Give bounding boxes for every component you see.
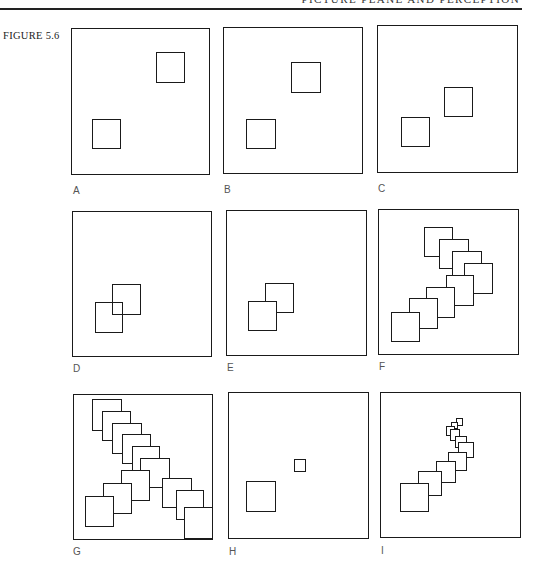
panel-label-d: D [73, 363, 80, 374]
panel-label-f: F [379, 361, 385, 372]
panel-label-h: H [229, 546, 236, 557]
square [248, 301, 277, 331]
panel-h [228, 392, 369, 539]
square [401, 117, 430, 147]
panel-label-b: B [224, 184, 231, 195]
panel-i [380, 392, 521, 538]
figure-label: FIGURE 5.6 [3, 30, 60, 41]
square [92, 119, 121, 149]
square [391, 312, 420, 342]
panel-label-g: G [73, 546, 81, 557]
panel-b [223, 27, 363, 174]
panel-label-e: E [227, 362, 234, 373]
panel-f [378, 209, 519, 355]
panel-label-c: C [378, 183, 385, 194]
panel-d [72, 211, 212, 357]
square [156, 52, 185, 83]
header-rule [0, 8, 522, 10]
running-head: PICTURE PLANE AND PERCEPTION [301, 0, 520, 5]
panel-label-i: I [381, 545, 384, 556]
square [246, 119, 276, 149]
panel-c [377, 25, 518, 173]
square [444, 87, 473, 117]
square [291, 62, 321, 93]
panel-label-a: A [73, 185, 80, 196]
panel-e [226, 210, 367, 356]
square [246, 481, 276, 512]
panel-g [73, 394, 213, 540]
square [294, 459, 306, 472]
panel-a [71, 28, 210, 175]
square [400, 483, 429, 512]
square [95, 302, 123, 333]
square [85, 496, 114, 527]
square [184, 507, 213, 539]
